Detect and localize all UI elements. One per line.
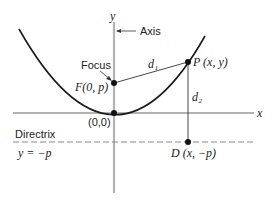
parabola-curve bbox=[19, 29, 205, 115]
focus-coord-label: F(0, p) bbox=[74, 80, 108, 94]
axis-arrowhead-icon bbox=[116, 29, 121, 33]
point-p bbox=[185, 59, 191, 65]
directrix-label: Directrix bbox=[15, 128, 56, 140]
d1-label: d₁ bbox=[148, 57, 158, 71]
origin-label: (0,0) bbox=[88, 116, 111, 128]
directrix-equation: y = −p bbox=[17, 146, 52, 160]
focus-label: Focus bbox=[81, 59, 111, 71]
parabola-diagram: y x Axis Focus F(0, p) (0,0) P (x, y) D … bbox=[0, 0, 274, 208]
point-d-label: D (x, −p) bbox=[170, 146, 216, 160]
x-axis-label: x bbox=[256, 106, 263, 120]
y-axis-label: y bbox=[109, 9, 116, 23]
origin-point bbox=[111, 110, 117, 116]
focus-point bbox=[111, 80, 117, 86]
axis-label: Axis bbox=[140, 25, 161, 37]
point-p-label: P (x, y) bbox=[192, 55, 228, 69]
d2-label: d₂ bbox=[192, 90, 202, 104]
point-d bbox=[185, 139, 191, 145]
